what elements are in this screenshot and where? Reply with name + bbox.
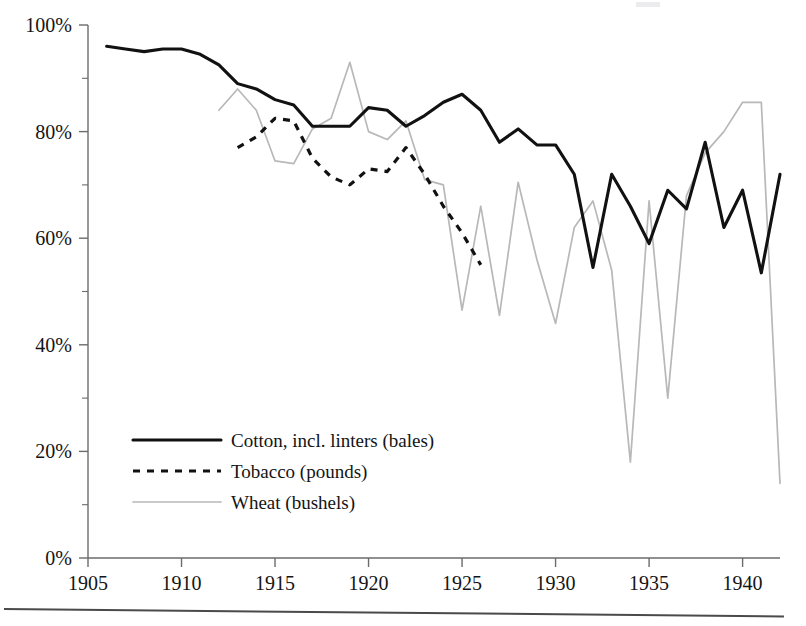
- legend-label: Cotton, incl. linters (bales): [231, 430, 434, 452]
- y-axis-tick-label: 60%: [35, 227, 72, 249]
- chart-legend: Cotton, incl. linters (bales)Tobacco (po…: [133, 430, 434, 514]
- x-axis-tick-label: 1910: [162, 572, 202, 594]
- line-chart: 0%20%40%60%80%100% 190519101915192019251…: [0, 0, 806, 626]
- y-axis-label-group: 0%20%40%60%80%100%: [25, 14, 72, 569]
- y-axis-tick-label: 80%: [35, 121, 72, 143]
- x-axis-tick-group: [88, 558, 743, 567]
- legend-label: Wheat (bushels): [231, 492, 355, 514]
- y-axis-tick-label: 0%: [45, 547, 72, 569]
- chart-figure: 0%20%40%60%80%100% 190519101915192019251…: [0, 0, 806, 626]
- x-axis-tick-label: 1930: [536, 572, 576, 594]
- y-axis-tick-label: 100%: [25, 14, 72, 36]
- x-axis-label-group: 19051910191519201925193019351940: [68, 572, 763, 594]
- y-axis-tick-group: [79, 25, 88, 558]
- x-axis-tick-label: 1935: [629, 572, 669, 594]
- y-axis-tick-label: 40%: [35, 334, 72, 356]
- x-axis-tick-label: 1915: [255, 572, 295, 594]
- legend-label: Tobacco (pounds): [231, 461, 367, 483]
- x-axis-tick-label: 1920: [349, 572, 389, 594]
- x-axis-tick-label: 1940: [723, 572, 763, 594]
- series-line-cotton: [107, 46, 780, 273]
- x-axis-tick-label: 1925: [442, 572, 482, 594]
- y-axis-tick-label: 20%: [35, 440, 72, 462]
- series-line-wheat: [219, 62, 780, 483]
- x-axis-tick-label: 1905: [68, 572, 108, 594]
